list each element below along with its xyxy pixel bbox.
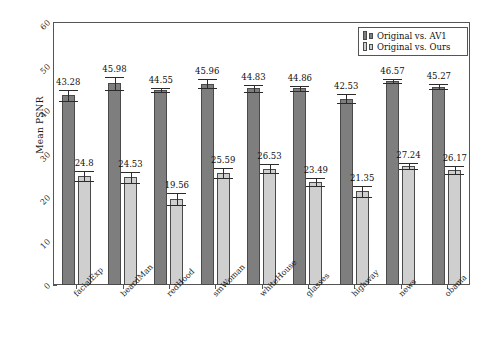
bar-value-label: 23.49 [298, 165, 334, 175]
bar-av1 [62, 95, 75, 285]
bar-ours [124, 177, 137, 285]
error-bar-stem [177, 193, 178, 205]
y-tick-label: 30 [15, 150, 52, 187]
error-bar-cap-upper [290, 86, 309, 87]
error-bar-cap-lower [290, 91, 309, 92]
error-bar-cap-lower [151, 92, 170, 93]
bar-value-label: 45.98 [97, 64, 133, 74]
error-bar-cap-lower [105, 90, 124, 91]
error-bar-cap-upper [75, 171, 94, 172]
error-bar-cap-upper [214, 168, 233, 169]
bar-av1 [432, 87, 445, 285]
y-tick-label: 10 [15, 237, 52, 274]
error-bar-cap-lower [383, 83, 402, 84]
bar-chart: Mean PSNR 0102030405060 43.2824.845.9824… [0, 0, 493, 339]
error-bar-cap-upper [353, 186, 372, 187]
error-bar-cap-lower [75, 181, 94, 182]
error-bar-stem [270, 164, 271, 173]
legend-item-av1: Original vs. AV1 [363, 30, 463, 41]
bar-ours [309, 182, 322, 285]
error-bar-cap-lower [260, 173, 279, 174]
error-bar-cap-lower [214, 178, 233, 179]
error-bar-cap-lower [167, 205, 186, 206]
error-bar-cap-upper [59, 90, 78, 91]
y-tick-label: 0 [15, 281, 52, 318]
y-tick-label: 40 [15, 106, 52, 143]
error-bar-cap-upper [105, 77, 124, 78]
error-bar-stem [362, 186, 363, 197]
bar-value-label: 44.83 [236, 72, 272, 82]
bar-ours [448, 170, 461, 285]
error-bar-cap-upper [383, 79, 402, 80]
error-bar-cap-upper [306, 178, 325, 179]
y-tick-label: 50 [15, 62, 52, 99]
bar-ours [217, 173, 230, 285]
error-bar-stem [131, 172, 132, 183]
error-bar-cap-lower [121, 183, 140, 184]
bar-value-label: 42.53 [328, 81, 364, 91]
bar-value-label: 25.59 [205, 155, 241, 165]
error-bar-stem [115, 77, 116, 90]
bar-value-label: 24.8 [66, 158, 102, 168]
error-bar-cap-lower [445, 174, 464, 175]
bar-value-label: 45.27 [421, 71, 457, 81]
error-bar-cap-upper [167, 193, 186, 194]
y-tick-label: 60 [15, 18, 52, 55]
chart-legend: Original vs. AV1 Original vs. Ours [358, 27, 468, 56]
error-bar-cap-upper [121, 172, 140, 173]
error-bar-cap-lower [353, 197, 372, 198]
error-bar-stem [223, 168, 224, 178]
error-bar-cap-lower [399, 169, 418, 170]
bar-value-label: 44.86 [282, 73, 318, 83]
legend-swatch-av1-icon [363, 31, 373, 40]
error-bar-stem [455, 166, 456, 174]
error-bar-stem [84, 171, 85, 181]
bar-av1 [247, 88, 260, 285]
bar-value-label: 21.35 [344, 173, 380, 183]
bar-value-label: 27.24 [391, 150, 427, 160]
error-bar-cap-lower [337, 103, 356, 104]
bar-value-label: 43.28 [50, 77, 86, 87]
error-bar-cap-lower [244, 92, 263, 93]
error-bar-cap-lower [429, 89, 448, 90]
error-bar-cap-upper [337, 94, 356, 95]
error-bar-cap-lower [59, 101, 78, 102]
legend-swatch-ours-icon [363, 42, 373, 51]
error-bar-stem [68, 90, 69, 101]
bar-value-label: 44.55 [143, 75, 179, 85]
error-bar-cap-upper [445, 166, 464, 167]
error-bar-stem [346, 94, 347, 103]
y-tick-label: 20 [15, 194, 52, 231]
bar-av1 [340, 99, 353, 285]
error-bar-cap-lower [198, 88, 217, 89]
legend-label-av1: Original vs. AV1 [377, 31, 447, 41]
y-tick-mark [53, 285, 57, 286]
bar-av1 [293, 88, 306, 285]
error-bar-cap-upper [260, 164, 279, 165]
error-bar-stem [316, 178, 317, 187]
bar-ours [402, 166, 415, 285]
bar-av1 [386, 81, 399, 285]
bar-value-label: 46.57 [375, 66, 411, 76]
error-bar-cap-upper [244, 85, 263, 86]
bar-value-label: 26.17 [437, 153, 473, 163]
legend-label-ours: Original vs. Ours [377, 42, 450, 52]
bar-ours [170, 199, 183, 285]
bar-av1 [201, 84, 214, 285]
error-bar-cap-upper [198, 79, 217, 80]
bar-ours [356, 191, 369, 285]
legend-item-ours: Original vs. Ours [363, 41, 463, 52]
error-bar-stem [207, 79, 208, 88]
bar-value-label: 19.56 [159, 180, 195, 190]
error-bar-cap-upper [399, 163, 418, 164]
bar-value-label: 26.53 [252, 151, 288, 161]
error-bar-cap-lower [306, 186, 325, 187]
bar-ours [78, 176, 91, 285]
error-bar-cap-upper [151, 88, 170, 89]
bar-ours [263, 169, 276, 285]
bar-value-label: 45.96 [189, 66, 225, 76]
bar-value-label: 24.53 [113, 159, 149, 169]
bar-av1 [108, 83, 121, 285]
error-bar-cap-upper [429, 84, 448, 85]
